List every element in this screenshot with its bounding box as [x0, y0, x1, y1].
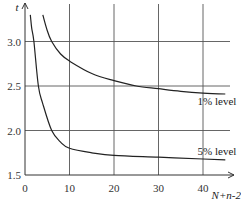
- y-tick-label: 1.5: [7, 169, 21, 181]
- t-distribution-chart: 0102030401.52.02.53.0tN+n-21% level5% le…: [0, 0, 241, 200]
- x-tick-label: 40: [198, 182, 210, 194]
- x-tick-label: 0: [22, 182, 28, 194]
- curve-5pct-level: [30, 15, 225, 160]
- series-annotation: 5% level: [198, 145, 237, 157]
- y-axis-label: t: [15, 1, 19, 13]
- x-tick-label: 10: [64, 182, 76, 194]
- curve-1pct-level: [43, 15, 226, 94]
- y-tick-label: 3.0: [7, 36, 21, 48]
- x-tick-label: 20: [109, 182, 121, 194]
- y-tick-label: 2.0: [7, 125, 21, 137]
- x-axis-label: N+n-2: [211, 189, 241, 200]
- series-annotation: 1% level: [198, 95, 237, 107]
- x-tick-label: 30: [153, 182, 165, 194]
- curves: [30, 15, 225, 160]
- y-tick-label: 2.5: [7, 80, 21, 92]
